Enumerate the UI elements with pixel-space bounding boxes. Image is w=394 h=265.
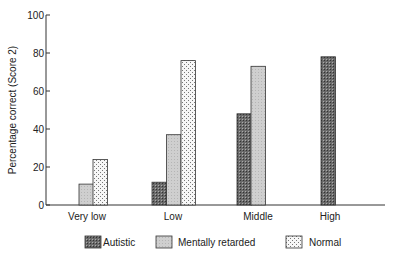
bars	[79, 57, 336, 205]
bar-mentally-retarded	[167, 135, 182, 205]
x-tick-label: Very low	[68, 211, 107, 222]
y-axis: 020406080100	[27, 10, 50, 211]
y-axis-label: Percentage correct (Score 2)	[7, 46, 18, 174]
y-tick-label: 0	[38, 200, 44, 211]
bar-autistic	[321, 57, 336, 205]
legend: AutisticMentally retardedNormal	[85, 236, 341, 248]
legend-swatch	[156, 236, 172, 248]
bar-autistic	[152, 182, 167, 205]
legend-label: Normal	[309, 237, 341, 248]
legend-label: Mentally retarded	[178, 237, 255, 248]
legend-swatch	[286, 236, 302, 248]
x-tick-label: High	[320, 211, 341, 222]
x-tick-label: Low	[164, 211, 183, 222]
bar-normal	[181, 61, 196, 205]
bar-normal	[93, 159, 108, 205]
bar-mentally-retarded	[251, 66, 266, 205]
bar-autistic	[237, 114, 252, 205]
x-tick-label: Middle	[243, 211, 273, 222]
y-tick-label: 60	[33, 86, 45, 97]
y-tick-label: 20	[33, 162, 45, 173]
bar-mentally-retarded	[79, 184, 94, 205]
x-axis: Very lowLowMiddleHigh	[46, 205, 385, 222]
legend-swatch	[85, 236, 101, 248]
y-tick-label: 40	[33, 124, 45, 135]
y-tick-label: 80	[33, 48, 45, 59]
legend-label: Autistic	[103, 237, 135, 248]
y-tick-label: 100	[27, 10, 44, 21]
bar-chart: 020406080100 Very lowLowMiddleHigh Perce…	[0, 0, 394, 265]
